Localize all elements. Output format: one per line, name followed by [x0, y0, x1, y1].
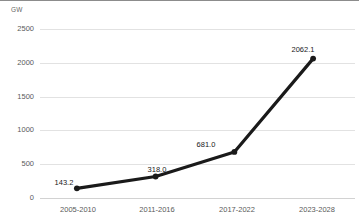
data-label-2017-2022: 681.0 [176, 140, 236, 149]
x-tick-label-2005-2010: 2005-2010 [33, 205, 123, 214]
data-point-marker [231, 149, 237, 155]
data-label-2011-2016: 318.0 [127, 165, 187, 174]
line-chart: GW 2500 2000 1500 1000 500 0 143.2 318.0… [0, 0, 359, 222]
data-label-2023-2028: 2062.1 [273, 45, 333, 54]
data-point-marker [153, 174, 159, 180]
series-line [77, 59, 313, 189]
x-tick-label-2011-2016: 2011-2016 [112, 205, 202, 214]
data-label-2005-2010: 143.2 [34, 178, 94, 187]
x-tick-label-2017-2022: 2017-2022 [192, 205, 282, 214]
series-layer [0, 0, 359, 222]
x-tick-label-2023-2028: 2023-2028 [272, 205, 359, 214]
data-point-marker [310, 56, 316, 62]
